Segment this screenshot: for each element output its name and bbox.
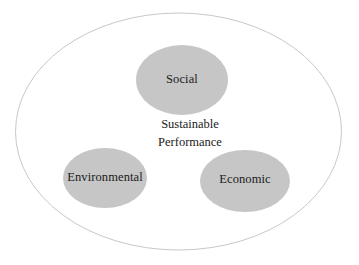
- center-label-line-1: Sustainable: [140, 116, 240, 134]
- environmental-label: Environmental: [53, 170, 157, 185]
- diagram-canvas: Social Environmental Economic Sustainabl…: [0, 0, 359, 265]
- economic-label: Economic: [199, 172, 291, 187]
- center-label-line-2: Performance: [140, 134, 240, 152]
- center-label: Sustainable Performance: [140, 116, 240, 152]
- social-label: Social: [136, 72, 228, 87]
